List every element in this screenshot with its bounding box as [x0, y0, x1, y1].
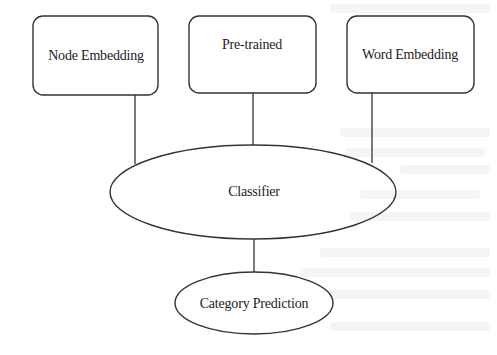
diagram-canvas: Node Embedding Pre-trained Word Embeddin…: [0, 0, 497, 355]
category-prediction-label: Category Prediction: [200, 296, 309, 312]
word-embedding-label: Word Embedding: [362, 47, 458, 63]
classifier-label: Classifier: [228, 184, 280, 200]
node-embedding-label: Node Embedding: [48, 48, 144, 64]
pretrained-label: Pre-trained: [222, 37, 282, 53]
pretrained-box: [189, 16, 316, 93]
